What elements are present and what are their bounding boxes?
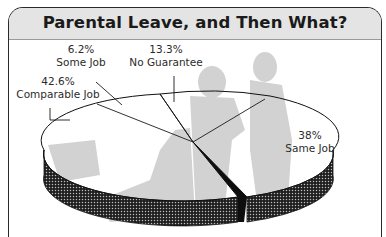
slice-label-same-job: 38% Same Job <box>285 129 335 154</box>
slice-label-no-guarantee: 13.3% No Guarantee <box>129 43 202 68</box>
svg-text:Some Job: Some Job <box>56 56 106 68</box>
svg-text:6.2%: 6.2% <box>68 43 95 55</box>
svg-text:42.6%: 42.6% <box>41 75 74 87</box>
svg-text:38%: 38% <box>298 129 321 141</box>
svg-text:No Guarantee: No Guarantee <box>129 56 202 68</box>
svg-text:13.3%: 13.3% <box>149 43 182 55</box>
svg-text:Same Job: Same Job <box>285 142 335 154</box>
slice-label-some-job: 6.2% Some Job <box>56 43 106 68</box>
svg-text:Comparable Job: Comparable Job <box>16 88 100 100</box>
pie-chart: 42.6% Comparable Job 6.2% Some Job 13.3%… <box>0 0 386 237</box>
slice-label-comparable-job: 42.6% Comparable Job <box>16 75 100 100</box>
